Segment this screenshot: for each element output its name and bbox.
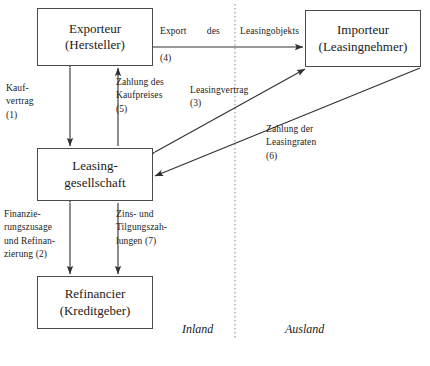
edge-label-export-word2: des <box>207 25 220 38</box>
region-label-inland: Inland <box>182 322 213 337</box>
node-importeur-line2: (Leasingnehmer) <box>319 39 408 55</box>
node-leasinggesellschaft: Leasing- gesellschaft <box>37 148 153 201</box>
node-leasinggesellschaft-line1: Leasing- <box>72 158 117 174</box>
edge-label-export-word3: Leasingobjekts <box>240 25 299 38</box>
node-importeur-line1: Importeur <box>337 22 389 38</box>
node-exporteur: Exporteur (Hersteller) <box>37 8 153 66</box>
edge-label-export-number: (4) <box>160 53 171 63</box>
node-refinancier-line1: Refinancier <box>65 286 126 302</box>
edge-label-finanzierungszusage: Finanzie- rungszusage und Refinan- zieru… <box>4 208 55 262</box>
edge-label-export-word1: Export <box>160 25 186 38</box>
node-exporteur-line1: Exporteur <box>69 21 121 37</box>
edge-label-leasingvertrag: Leasingvertrag (3) <box>190 84 248 111</box>
leasing-flow-diagram: Exporteur (Hersteller) Importeur (Leasin… <box>0 0 430 366</box>
node-leasinggesellschaft-line2: gesellschaft <box>64 175 125 191</box>
edge-label-kaufvertrag: Kauf- vertrag (1) <box>6 82 34 122</box>
node-importeur: Importeur (Leasingnehmer) <box>305 10 421 67</box>
edge-label-zins-tilgungszahlungen: Zins- und Tilgungszah- lungen (7) <box>116 208 167 248</box>
node-refinancier: Refinancier (Kreditgeber) <box>37 276 153 329</box>
region-label-ausland: Ausland <box>285 322 324 337</box>
edge-label-zahlung-leasingraten: Zahlung der Leasingraten (6) <box>266 123 316 163</box>
edge-label-export-leasingobjekt: Export des Leasingobjekts (4) <box>160 12 310 66</box>
node-refinancier-line2: (Kreditgeber) <box>60 303 131 319</box>
edge-label-zahlung-kaufpreises: Zahlung des Kaufpreises (5) <box>116 76 164 116</box>
node-exporteur-line2: (Hersteller) <box>65 37 125 53</box>
